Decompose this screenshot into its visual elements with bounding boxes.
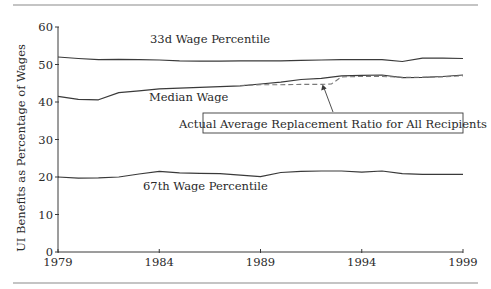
y-ticks: 0102030405060 [38,20,59,259]
callout-arrow-shaft [324,88,333,112]
x-tick-label: 1984 [145,255,174,269]
y-tick-label: 20 [38,170,53,184]
label-67th-percentile: 67th Wage Percentile [143,179,268,193]
y-tick-label: 30 [38,133,53,147]
series-67th-wage-percentile [58,171,463,178]
y-tick-label: 40 [38,95,53,109]
series-median-wage [58,75,463,100]
line-chart: 0102030405060 19791984198919941999 UI Be… [0,0,491,289]
x-tick-label: 1979 [43,255,72,269]
y-tick-label: 10 [38,208,53,222]
x-tick-label: 1999 [448,255,477,269]
series-33d-wage-percentile [58,57,463,62]
y-tick-label: 50 [38,58,53,72]
label-actual-ratio: Actual Average Replacement Ratio for All… [178,117,487,131]
callout-arrow-head-icon [321,85,326,91]
x-tick-label: 1994 [347,255,376,269]
label-median-wage: Median Wage [149,90,229,104]
y-axis-label: UI Benefits as Percentage of Wages [14,44,28,252]
x-tick-label: 1989 [246,255,275,269]
y-tick-label: 60 [38,20,53,34]
label-33d-percentile: 33d Wage Percentile [150,32,270,46]
